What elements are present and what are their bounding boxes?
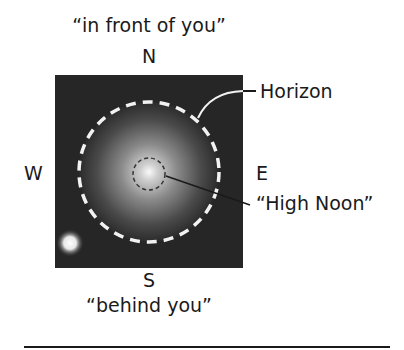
sun-icon: [56, 229, 84, 257]
north-label: N: [142, 47, 156, 66]
south-label: S: [143, 271, 155, 290]
east-label: E: [256, 164, 268, 183]
top-caption: “in front of you”: [72, 16, 226, 35]
bottom-caption: “behind you”: [86, 296, 212, 315]
divider-line: [24, 346, 390, 348]
high-noon-label: “High Noon”: [256, 194, 373, 213]
horizon-label: Horizon: [260, 82, 333, 101]
west-label: W: [24, 164, 43, 183]
